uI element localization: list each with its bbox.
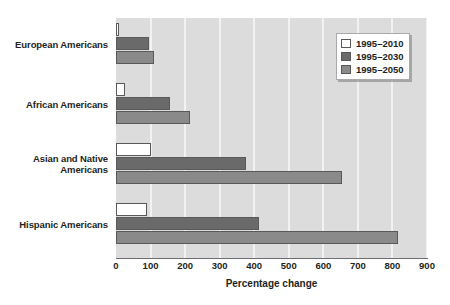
x-tick-label-800: 800 — [385, 260, 401, 271]
x-axis-title: Percentage change — [116, 278, 427, 289]
category-label-line: Hispanic Americans — [0, 219, 108, 230]
category-label: African Americans — [0, 99, 108, 110]
x-tick-label-0: 0 — [113, 260, 118, 271]
x-tick-label-400: 400 — [246, 260, 262, 271]
category-label-line: African Americans — [0, 99, 108, 110]
x-axis-line — [116, 258, 428, 259]
bar — [116, 171, 342, 184]
x-tick-label-700: 700 — [350, 260, 366, 271]
category-label-line: European Americans — [0, 39, 108, 50]
bar — [116, 203, 147, 216]
legend-label: 1995–2010 — [356, 38, 404, 49]
bar — [116, 231, 398, 244]
legend-item: 1995–2010 — [341, 37, 404, 50]
bar — [116, 51, 154, 64]
bar — [116, 83, 125, 96]
x-tick-label-500: 500 — [281, 260, 297, 271]
chart-legend: 1995–20101995–20301995–2050 — [336, 33, 410, 80]
legend-label: 1995–2050 — [356, 64, 404, 75]
legend-item: 1995–2050 — [341, 63, 404, 76]
legend-swatch-icon — [341, 39, 351, 48]
gridline-900 — [426, 18, 427, 258]
x-tick-label-600: 600 — [315, 260, 331, 271]
bar — [116, 111, 190, 124]
bar — [116, 217, 259, 230]
gridline-500 — [288, 18, 290, 258]
x-tick-label-300: 300 — [212, 260, 228, 271]
category-label-line: Americans — [0, 164, 108, 175]
x-tick-label-900: 900 — [419, 260, 435, 271]
legend-swatch-icon — [341, 65, 351, 74]
bar — [116, 37, 149, 50]
bar — [116, 23, 119, 36]
x-tick-label-200: 200 — [177, 260, 193, 271]
legend-item: 1995–2030 — [341, 50, 404, 63]
legend-label: 1995–2030 — [356, 51, 404, 62]
category-axis-labels: European AmericansAfrican AmericansAsian… — [0, 18, 112, 258]
category-label: European Americans — [0, 39, 108, 50]
bar — [116, 143, 151, 156]
chart-figure: European AmericansAfrican AmericansAsian… — [0, 0, 450, 305]
category-label: Asian and NativeAmericans — [0, 153, 108, 175]
x-axis-tick-labels: 0100200300400500600700800900 — [0, 260, 450, 274]
bar — [116, 157, 246, 170]
x-tick-label-100: 100 — [143, 260, 159, 271]
bar — [116, 97, 170, 110]
category-label: Hispanic Americans — [0, 219, 108, 230]
legend-swatch-icon — [341, 52, 351, 61]
category-label-line: Asian and Native — [0, 153, 108, 164]
gridline-600 — [322, 18, 324, 258]
